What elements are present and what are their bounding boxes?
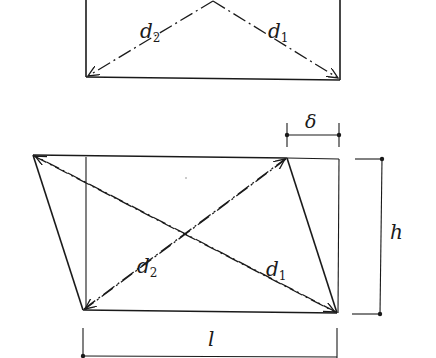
h-label: h [390,220,403,244]
h-dimension: h [352,157,403,316]
speck [185,177,187,179]
top-bottom-edge [86,77,340,80]
top-label-d1: d1 [268,19,288,45]
delta-dimension: δ [285,110,341,147]
delta-label: δ [305,110,316,132]
bottom-label-d2: d2 [137,254,157,280]
top-diagram: d2 d1 [86,0,340,80]
l-dimension: l [81,327,337,358]
bottom-diagram: d2 d1 δ h l [33,110,403,358]
parallelogram-left-edge [33,155,83,310]
original-top-right-segment [287,158,339,159]
diagonal-d2-arrow-to-bottom-left [85,159,286,309]
parallelogram-right-edge [287,158,337,313]
l-label: l [208,327,214,351]
parallelogram-top-edge [33,155,287,158]
top-label-d2: d2 [140,19,160,45]
bottom-label-d1: d1 [266,257,286,283]
original-right-edge [338,159,339,313]
parallelogram-bottom-edge [83,310,337,313]
shear-diagram: d2 d1 d2 d1 [0,0,436,358]
